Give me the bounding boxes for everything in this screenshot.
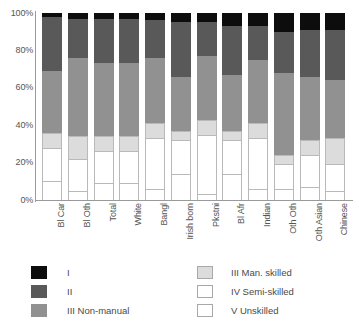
bar-segment: [222, 13, 242, 26]
bar-segment: [274, 155, 294, 164]
bar-segment: [197, 56, 217, 120]
bar-segment: [94, 151, 114, 183]
bar-segment: [197, 194, 217, 200]
stacked-bar-chart: 0%20%40%60%80%100% IIIIII Non-manual III…: [0, 0, 359, 325]
bar-segment: [119, 183, 139, 200]
bar-segment: [325, 30, 345, 80]
bar-oth-oth: [274, 13, 294, 200]
bar-segment: [145, 138, 165, 188]
bar-segment: [300, 30, 320, 77]
bar-segment: [274, 73, 294, 155]
plot-area: [35, 13, 353, 200]
bar-segment: [145, 20, 165, 57]
bar-segment: [300, 187, 320, 200]
bar-segment: [171, 77, 191, 131]
bar-segment: [171, 140, 191, 174]
bar-segment: [248, 13, 268, 26]
x-axis-tick-label: Bl Oth: [82, 203, 92, 263]
bar-bl-afr: [222, 13, 242, 200]
bar-segment: [222, 131, 242, 140]
legend-column-left: IIIIII Non-manual: [31, 263, 129, 320]
legend-label: III Non-manual: [67, 306, 129, 316]
bar-segment: [171, 13, 191, 22]
bar-segment: [300, 13, 320, 30]
x-axis-tick-label: Oth Asian: [314, 203, 324, 263]
bar-bangl: [145, 13, 165, 200]
bar-segment: [68, 136, 88, 158]
bar-segment: [94, 63, 114, 136]
bar-segment: [119, 13, 139, 19]
legend-swatch: [31, 266, 47, 279]
bar-segment: [42, 133, 62, 148]
legend-swatch: [31, 285, 47, 298]
bar-segment: [248, 60, 268, 124]
bar-bl-oth: [68, 13, 88, 200]
legend-item: III Man. skilled: [197, 263, 294, 282]
bar-segment: [274, 32, 294, 73]
bar-oth-asian: [300, 13, 320, 200]
bar-segment: [119, 63, 139, 136]
x-axis-tick-label: Pkstni: [211, 203, 221, 263]
bar-segment: [42, 71, 62, 133]
legend-swatch: [31, 304, 47, 317]
bar-segment: [119, 136, 139, 151]
x-axis-line: [35, 200, 353, 201]
bar-segment: [274, 164, 294, 188]
y-axis: 0%20%40%60%80%100%: [0, 0, 33, 325]
bar-total: [94, 13, 114, 200]
bar-segment: [68, 159, 88, 191]
bar-segment: [222, 26, 242, 75]
x-axis-tick-label: Bangl: [159, 203, 169, 263]
bar-segment: [274, 13, 294, 32]
legend-label: V Unskilled: [231, 306, 279, 316]
y-axis-tick-label: 80%: [1, 46, 33, 55]
bar-bl-car: [42, 13, 62, 200]
x-axis-tick-label: Bl Afr: [236, 203, 246, 263]
bar-segment: [119, 19, 139, 64]
legend: IIIIII Non-manual III Man. skilledIV Sem…: [31, 263, 351, 323]
bar-pkstni: [197, 13, 217, 200]
bar-segment: [222, 140, 242, 174]
bar-segment: [300, 155, 320, 187]
legend-item: I: [31, 263, 129, 282]
bar-white: [119, 13, 139, 200]
legend-swatch: [197, 285, 213, 298]
bar-irish-born: [171, 13, 191, 200]
bar-segment: [171, 174, 191, 200]
y-axis-tick-label: 60%: [1, 83, 33, 92]
bar-segment: [197, 22, 217, 56]
legend-label: III Man. skilled: [231, 268, 292, 278]
legend-item: II: [31, 282, 129, 301]
y-axis-tick-label: 0%: [1, 196, 33, 205]
x-axis-tick-label: Indian: [262, 203, 272, 263]
bar-segment: [171, 131, 191, 140]
bar-segment: [68, 19, 88, 58]
y-axis-tick-label: 40%: [1, 121, 33, 130]
legend-item: IV Semi-skilled: [197, 282, 294, 301]
legend-swatch: [197, 266, 213, 279]
bar-segment: [197, 135, 217, 195]
bar-segment: [145, 123, 165, 138]
y-axis-tick-label: 20%: [1, 158, 33, 167]
legend-item: V Unskilled: [197, 301, 294, 320]
bar-segment: [42, 148, 62, 182]
legend-swatch: [197, 304, 213, 317]
bar-segment: [68, 58, 88, 137]
bar-segment: [68, 191, 88, 200]
bar-segment: [300, 140, 320, 155]
bar-segment: [94, 136, 114, 151]
bar-segment: [145, 189, 165, 200]
bar-segment: [325, 191, 345, 200]
bar-segment: [197, 120, 217, 135]
x-axis-tick-label: Chinese: [339, 203, 349, 263]
bar-segment: [222, 75, 242, 131]
bar-indian: [248, 13, 268, 200]
bar-segment: [94, 19, 114, 64]
bar-segment: [197, 13, 217, 22]
bar-segment: [94, 13, 114, 19]
bar-segment: [145, 58, 165, 123]
legend-label: IV Semi-skilled: [231, 287, 294, 297]
bar-segment: [171, 22, 191, 76]
bar-segment: [274, 189, 294, 200]
bar-segment: [145, 13, 165, 20]
